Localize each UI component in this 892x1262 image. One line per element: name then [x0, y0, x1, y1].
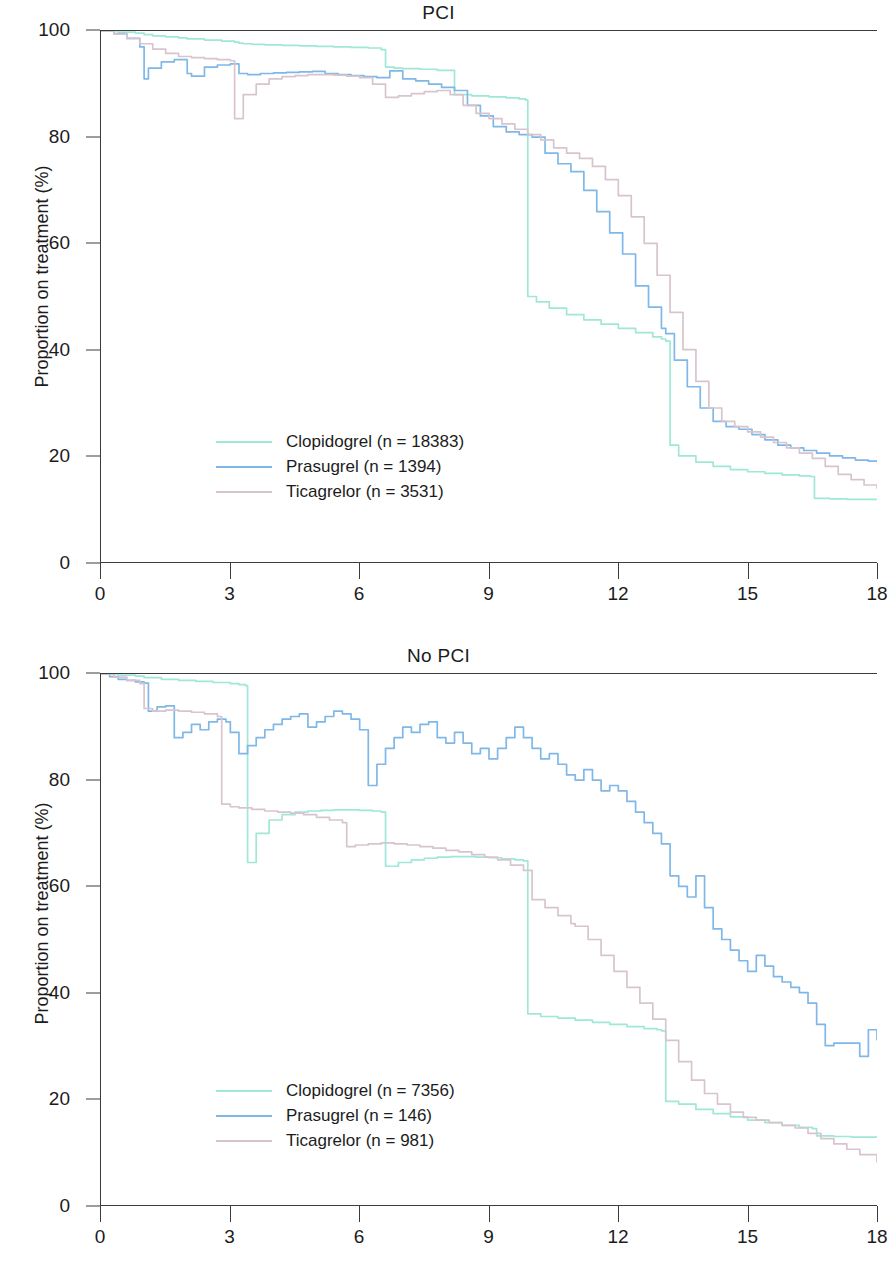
legend-item: Ticagrelor (n = 3531): [216, 479, 464, 504]
x-tick-label: 3: [210, 1226, 250, 1248]
y-tick-mark: [86, 30, 100, 31]
y-tick-mark: [86, 243, 100, 244]
y-tick-label: 80: [24, 126, 70, 148]
x-tick-label: 12: [598, 1226, 638, 1248]
x-tick-mark: [230, 1206, 231, 1222]
x-tick-mark: [618, 563, 619, 579]
x-tick-mark: [230, 563, 231, 579]
chart-panel-pci: PCI Proportion on treatment (%) 02040608…: [0, 0, 877, 631]
legend-label: Ticagrelor (n = 981): [286, 1128, 434, 1153]
y-tick-mark: [86, 673, 100, 674]
x-tick-label: 18: [857, 583, 892, 605]
legend-item: Ticagrelor (n = 981): [216, 1128, 455, 1153]
x-tick-label: 0: [80, 1226, 120, 1248]
x-tick-mark: [748, 563, 749, 579]
legend-label: Clopidogrel (n = 7356): [286, 1078, 455, 1103]
plot-area-pci: Clopidogrel (n = 18383)Prasugrel (n = 13…: [100, 30, 877, 563]
x-tick-mark: [877, 563, 878, 579]
chart-panel-nopci: No PCI Proportion on treatment (%) 02040…: [0, 631, 877, 1262]
x-axis-pci: 0369121518: [100, 563, 877, 631]
y-tick-label: 0: [24, 1195, 70, 1217]
x-tick-label: 9: [469, 583, 509, 605]
y-axis-pci: 020406080100: [0, 0, 100, 631]
y-tick-label: 20: [24, 445, 70, 467]
y-tick-mark: [86, 456, 100, 457]
y-tick-mark: [86, 563, 100, 564]
x-tick-label: 12: [598, 583, 638, 605]
series-line-clopidogrel: [101, 674, 877, 1137]
x-tick-label: 15: [728, 1226, 768, 1248]
x-tick-mark: [618, 1206, 619, 1222]
legend-label: Prasugrel (n = 1394): [286, 454, 441, 479]
y-tick-mark: [86, 136, 100, 137]
legend-nopci: Clopidogrel (n = 7356)Prasugrel (n = 146…: [216, 1078, 455, 1153]
series-line-prasugrel: [101, 674, 877, 1056]
legend-swatch-icon: [216, 1115, 272, 1117]
y-tick-label: 0: [24, 552, 70, 574]
y-tick-label: 80: [24, 769, 70, 791]
legend-item: Prasugrel (n = 146): [216, 1103, 455, 1128]
x-axis-nopci: 0369121518: [100, 1206, 877, 1262]
x-tick-mark: [100, 1206, 101, 1222]
legend-swatch-icon: [216, 1140, 272, 1142]
legend-pci: Clopidogrel (n = 18383)Prasugrel (n = 13…: [216, 429, 464, 504]
legend-swatch-icon: [216, 466, 272, 468]
y-tick-label: 20: [24, 1088, 70, 1110]
y-tick-mark: [86, 1099, 100, 1100]
x-tick-label: 6: [339, 583, 379, 605]
x-tick-label: 18: [857, 1226, 892, 1248]
legend-label: Clopidogrel (n = 18383): [286, 429, 464, 454]
legend-item: Clopidogrel (n = 7356): [216, 1078, 455, 1103]
legend-item: Clopidogrel (n = 18383): [216, 429, 464, 454]
y-tick-label: 60: [24, 875, 70, 897]
plot-area-nopci: Clopidogrel (n = 7356)Prasugrel (n = 146…: [100, 673, 877, 1206]
y-axis-nopci: 020406080100: [0, 631, 100, 1262]
x-tick-mark: [359, 1206, 360, 1222]
y-tick-mark: [86, 886, 100, 887]
legend-item: Prasugrel (n = 1394): [216, 454, 464, 479]
x-tick-mark: [748, 1206, 749, 1222]
legend-swatch-icon: [216, 1090, 272, 1092]
panel-title-pci: PCI: [0, 2, 877, 24]
y-tick-mark: [86, 349, 100, 350]
y-tick-label: 60: [24, 232, 70, 254]
legend-swatch-icon: [216, 441, 272, 443]
x-tick-mark: [359, 563, 360, 579]
x-tick-label: 6: [339, 1226, 379, 1248]
legend-label: Prasugrel (n = 146): [286, 1103, 432, 1128]
x-tick-label: 15: [728, 583, 768, 605]
y-tick-mark: [86, 1206, 100, 1207]
y-tick-label: 100: [24, 19, 70, 41]
y-tick-mark: [86, 779, 100, 780]
x-tick-mark: [489, 563, 490, 579]
x-tick-label: 3: [210, 583, 250, 605]
x-tick-mark: [489, 1206, 490, 1222]
legend-swatch-icon: [216, 491, 272, 493]
y-tick-label: 100: [24, 662, 70, 684]
y-tick-label: 40: [24, 982, 70, 1004]
legend-label: Ticagrelor (n = 3531): [286, 479, 444, 504]
x-tick-label: 9: [469, 1226, 509, 1248]
x-tick-mark: [100, 563, 101, 579]
y-tick-mark: [86, 992, 100, 993]
y-tick-label: 40: [24, 339, 70, 361]
x-tick-mark: [877, 1206, 878, 1222]
x-tick-label: 0: [80, 583, 120, 605]
series-line-ticagrelor: [101, 31, 877, 489]
panel-title-nopci: No PCI: [0, 645, 877, 667]
